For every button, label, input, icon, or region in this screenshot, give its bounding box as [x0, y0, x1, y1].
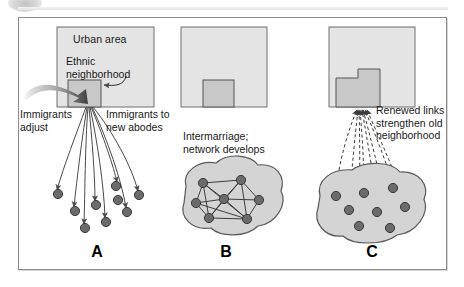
- panel-a-caption-immigrants-adjust: Immigrants adjust: [20, 108, 72, 133]
- panel-c-caption-renewed-links: Renewed links strengthen old neighborhoo…: [376, 104, 444, 142]
- panel-a-ethnic-neighborhood-line2: neighborhood: [66, 68, 130, 81]
- panel-a-letter: A: [82, 243, 112, 261]
- panel-b-node: [254, 195, 263, 204]
- panel-a-node: [101, 217, 110, 226]
- panel-b-ethnic-neighborhood-box: [203, 80, 234, 107]
- panel-c-node: [400, 202, 409, 211]
- panel-a-node: [134, 190, 143, 199]
- panel-b-community-blob: [183, 156, 283, 235]
- panel-c-node: [359, 188, 368, 197]
- panel-a-node: [53, 189, 62, 198]
- panel-a-caption-immigrants-new-abodes: Immigrants to new abodes: [106, 108, 170, 133]
- panel-c-node: [331, 191, 340, 200]
- caption-line: network develops: [183, 143, 265, 156]
- caption-line: Renewed links: [376, 104, 444, 117]
- panel-b-node: [236, 175, 245, 184]
- panel-c-node: [372, 207, 381, 216]
- panel-a-node: [80, 223, 89, 232]
- panel-a-ethnic-neighborhood-line1: Ethnic: [66, 55, 130, 68]
- panel-b-node: [204, 213, 213, 222]
- panel-c-community-blob: [317, 163, 426, 243]
- panel-a-node: [70, 206, 79, 215]
- caption-line: Immigrants: [20, 108, 72, 121]
- panel-c-node: [344, 205, 353, 214]
- panel-b-node: [198, 178, 207, 187]
- caption-line: Immigrants to: [106, 108, 170, 121]
- panel-b-caption-intermarriage: Intermarriage; network develops: [183, 130, 265, 155]
- caption-line: Intermarriage;: [183, 130, 265, 143]
- panel-c-node: [354, 221, 363, 230]
- panel-b-node: [242, 214, 251, 223]
- panel-a-urban-area-label: Urban area: [73, 33, 127, 45]
- caption-line: adjust: [20, 121, 72, 134]
- panel-a-nodes: [53, 181, 143, 232]
- caption-line: strengthen old: [376, 117, 444, 130]
- panel-b-letter: B: [211, 243, 241, 261]
- panel-a-node: [91, 200, 100, 209]
- panel-a-node: [122, 207, 131, 216]
- panel-b-node: [219, 194, 228, 203]
- panel-c-node: [388, 183, 397, 192]
- panel-b-node: [191, 198, 200, 207]
- panel-a-node: [113, 195, 122, 204]
- panel-a-ethnic-neighborhood-label: Ethnic neighborhood: [66, 55, 130, 80]
- panel-c-letter: C: [357, 243, 387, 261]
- figure-page: Urban area Ethnic neighborhood Immigrant…: [0, 0, 464, 287]
- panel-a-node: [111, 181, 120, 190]
- caption-line: new abodes: [106, 121, 170, 134]
- panel-c-node: [385, 223, 394, 232]
- caption-line: neighborhood: [376, 129, 444, 142]
